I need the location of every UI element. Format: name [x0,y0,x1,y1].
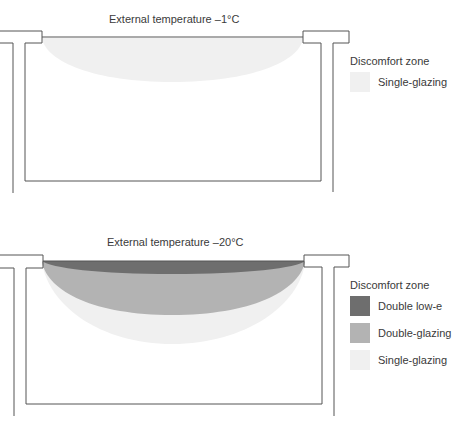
right-wall-2 [304,255,349,416]
legend-1-title: Discomfort zone [350,55,429,67]
left-wall-1 [0,31,42,193]
legend-label: Single-glazing [378,354,447,366]
diagram-1-room [0,31,349,193]
double-low-e-swatch [350,296,370,316]
legend-label: Single-glazing [378,76,447,88]
legend-label: Double low-e [378,300,442,312]
right-wall-1 [303,31,349,192]
diagram-2-title: External temperature –20°C [107,236,243,248]
single-glazing-zone-1 [42,38,303,82]
legend-2-item-single-glazing: Single-glazing [350,350,447,370]
legend-2-item-double-glazing: Double-glazing [350,323,451,343]
diagram-1-title: External temperature –1°C [109,13,239,25]
left-wall-2 [0,255,43,416]
legend-label: Double-glazing [378,327,451,339]
diagram-2-room [0,255,349,416]
double-glazing-swatch [350,323,370,343]
single-glazing-swatch [350,350,370,370]
legend-1-item-single-glazing: Single-glazing [350,72,447,92]
legend-2-item-double-low-e: Double low-e [350,296,442,316]
single-glazing-swatch [350,72,370,92]
legend-2-title: Discomfort zone [350,279,429,291]
